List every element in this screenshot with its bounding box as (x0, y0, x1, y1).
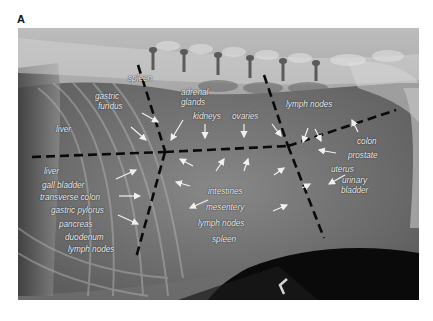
label-liver-top: liver (56, 125, 71, 134)
label-glands: glands (181, 98, 205, 107)
panel-letter: A (17, 13, 25, 25)
label-kidneys: kidneys (193, 112, 221, 121)
label-pancreas: pancreas (59, 220, 93, 229)
label-gastric: gastric (95, 92, 119, 101)
label-colon: colon (357, 137, 377, 146)
label-lymph-nodes-mid: lymph nodes (198, 219, 244, 228)
label-ovaries: ovaries (232, 112, 258, 121)
region-dividers (32, 65, 396, 258)
annotation-overlay (18, 28, 419, 300)
label-mesentery: mesentery (206, 203, 244, 212)
label-bladder: bladder (341, 186, 368, 195)
label-intestines: intestines (208, 187, 243, 196)
label-gastric-pylorus: gastric pylorus (51, 206, 104, 215)
label-lymph-nodes-top: lymph nodes (286, 100, 332, 109)
label-uterus: uterus (331, 165, 354, 174)
label-lymph-nodes-left: lymph nodes (68, 245, 114, 254)
label-prostate: prostate (348, 151, 378, 160)
label-adrenal: adrenal (181, 88, 208, 97)
radiograph-image: spleen gastric fundus liver adrenal glan… (18, 28, 419, 300)
label-transverse-colon: transverse colon (40, 193, 100, 202)
label-spleen-bottom: spleen (212, 235, 236, 244)
label-fundus: fundus (98, 102, 123, 111)
label-spleen-top: spleen (128, 74, 152, 83)
label-gall-bladder: gall bladder (42, 181, 84, 190)
label-liver-lower: liver (44, 167, 59, 176)
label-duodenum: duodenum (65, 233, 104, 242)
label-urinary: urinary (342, 176, 367, 185)
